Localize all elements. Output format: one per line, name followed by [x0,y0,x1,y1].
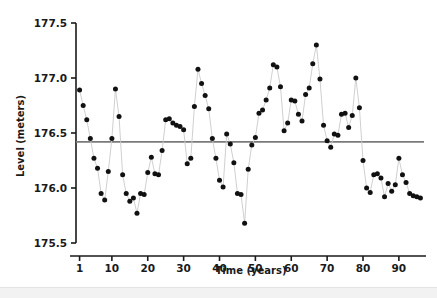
data-point [307,85,312,90]
data-point [404,180,409,185]
data-point [396,156,401,161]
data-point [253,135,258,140]
data-point [368,190,373,195]
data-point [210,136,215,141]
data-point [217,178,222,183]
data-point [203,93,208,98]
data-point [418,195,423,200]
data-point [145,170,150,175]
y-tick-label: 176.5 [34,127,67,139]
data-point [185,161,190,166]
data-point [213,156,218,161]
x-tick-label: 70 [320,262,335,274]
data-point [328,145,333,150]
line-scatter-chart: 175.5176.0176.5177.0177.5 11020304050607… [0,0,437,298]
x-axis-title: Time (years) [215,265,286,276]
data-point [106,169,111,174]
chart-figure: 175.5176.0176.5177.0177.5 11020304050607… [0,0,437,298]
data-point [134,211,139,216]
x-tick-label: 1 [76,262,83,274]
data-point [167,116,172,121]
data-point [95,166,100,171]
data-point [120,172,125,177]
y-tick-label: 176.0 [34,182,67,194]
data-point [156,172,161,177]
x-tick-label: 90 [392,262,407,274]
data-point [221,184,226,189]
y-tick-label: 177.5 [34,17,67,29]
data-point [400,172,405,177]
data-point [195,67,200,72]
data-point [282,128,287,133]
data-point [274,65,279,70]
data-point [117,114,122,119]
data-point [278,84,283,89]
data-point [375,171,380,176]
page-edge-strip [0,287,437,298]
data-point [199,81,204,86]
data-point [378,176,383,181]
data-point [386,181,391,186]
data-point [292,99,297,104]
data-point [113,87,118,92]
data-point [300,118,305,123]
data-point [310,61,315,66]
data-point [81,103,86,108]
data-point [206,106,211,111]
data-point [231,160,236,165]
data-point [264,98,269,103]
data-point [321,123,326,128]
data-point [389,189,394,194]
data-point [224,132,229,137]
data-point [242,221,247,226]
data-point [149,155,154,160]
data-point [350,113,355,118]
data-point [102,198,107,203]
data-point [361,158,366,163]
x-tick-label: 30 [176,262,191,274]
data-point [246,167,251,172]
y-tick-label: 177.0 [34,72,67,84]
data-point [343,111,348,116]
data-point [109,136,114,141]
data-point [393,182,398,187]
data-point [181,127,186,132]
y-tick-label: 175.5 [34,237,67,249]
data-point [239,192,244,197]
data-point [346,125,351,130]
data-point [364,186,369,191]
data-point [353,76,358,81]
data-point [160,148,165,153]
data-point [325,138,330,143]
data-point [77,88,82,93]
data-point [142,192,147,197]
data-point [84,117,89,122]
data-point [267,85,272,90]
y-axis-title: Level (meters) [15,95,26,177]
data-point [357,105,362,110]
data-point [228,142,233,147]
data-point [88,136,93,141]
data-point [314,43,319,48]
data-point [91,156,96,161]
data-point [335,133,340,138]
data-point [192,104,197,109]
data-point [131,195,136,200]
data-point [382,194,387,199]
data-point [317,77,322,82]
data-point [296,112,301,117]
data-point [124,191,129,196]
data-point [303,92,308,97]
data-point [249,143,254,148]
data-point [99,191,104,196]
x-tick-label: 10 [105,262,120,274]
x-tick-label: 20 [140,262,155,274]
data-point [188,156,193,161]
data-point [285,121,290,126]
data-point [260,107,265,112]
x-tick-label: 80 [356,262,371,274]
chart-background [0,0,437,298]
